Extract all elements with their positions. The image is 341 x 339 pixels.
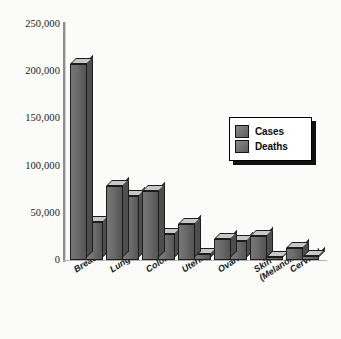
legend-label-deaths: Deaths <box>255 141 288 152</box>
bar-side-face <box>123 177 129 257</box>
legend-item-deaths: Deaths <box>235 140 305 153</box>
bar-cases-colorectal <box>142 191 159 260</box>
bar-front-face <box>70 64 87 260</box>
legend-label-cases: Cases <box>255 126 284 137</box>
bar-group <box>70 24 110 260</box>
bar-cases-breast <box>70 64 87 260</box>
bar-front-face <box>286 248 303 260</box>
bar-front-face <box>266 257 283 260</box>
bar-deaths-cervical <box>302 256 319 260</box>
bar-front-face <box>250 236 267 260</box>
bar-side-face <box>87 55 93 257</box>
bar-cases-lung <box>106 186 123 260</box>
bar-cases-uterine <box>178 224 195 260</box>
bar-front-face <box>302 256 319 260</box>
y-axis-tick-labels: 250,000200,000150,000100,00050,0000 <box>0 0 60 339</box>
bar-group <box>142 24 182 260</box>
y-tick-label: 200,000 <box>2 66 60 77</box>
bar-cases-ovarian <box>214 239 231 260</box>
bar-front-face <box>106 186 123 260</box>
bar-group <box>178 24 218 260</box>
bar-side-face <box>159 182 165 257</box>
bar-deaths-skin-melanoma <box>266 257 283 260</box>
y-tick-label: 250,000 <box>2 19 60 30</box>
y-tick-label: 150,000 <box>2 113 60 124</box>
bar-front-face <box>214 239 231 260</box>
legend-item-cases: Cases <box>235 125 305 138</box>
cases-swatch-icon <box>235 125 249 138</box>
y-tick-label: 0 <box>2 255 60 266</box>
bar-chart: 250,000200,000150,000100,00050,0000 Brea… <box>0 0 341 339</box>
bar-front-face <box>142 191 159 260</box>
bar-group <box>106 24 146 260</box>
deaths-swatch-icon <box>235 140 249 153</box>
bar-cases-cervical <box>286 248 303 260</box>
bar-front-face <box>178 224 195 260</box>
chart-legend: Cases Deaths <box>229 117 312 161</box>
bar-cases-skin-melanoma <box>250 236 267 260</box>
y-tick-label: 100,000 <box>2 161 60 172</box>
y-tick-label: 50,000 <box>2 208 60 219</box>
